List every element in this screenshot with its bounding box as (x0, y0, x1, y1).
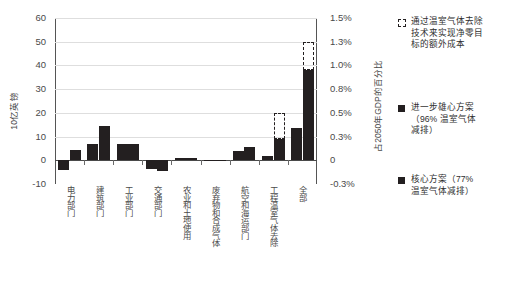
y-tick-label: -10 (12, 179, 46, 189)
y-tick-label: 30 (12, 84, 46, 94)
bar (99, 126, 110, 160)
dashed-extension-box (274, 113, 285, 139)
bar (291, 128, 302, 160)
bar (186, 158, 197, 160)
legend-swatch-icon (398, 105, 405, 112)
gridline (55, 65, 317, 66)
y-tick-label: 0 (12, 155, 46, 165)
x-category-label: 工程温室气体去除 (268, 186, 277, 247)
zero-baseline (55, 160, 317, 161)
y-tick-label: 40 (12, 60, 46, 70)
bar (70, 150, 81, 161)
y2-tick-label: 0.8% (330, 84, 370, 94)
y2-axis-tick-labels: 1.5%1.3%1.0%0.8%0.5%0.3%0-0.3% (330, 0, 372, 297)
left-axis-line (55, 18, 56, 184)
x-category-label: 建筑部门 (94, 186, 103, 216)
x-category-label: 工业部门 (123, 186, 132, 216)
y-axis-tick-labels: 6050403020100-10 (12, 0, 46, 297)
x-tickmark (84, 160, 85, 165)
bar (244, 147, 255, 160)
y2-tick-label: 0.3% (330, 132, 370, 142)
gridline (55, 89, 317, 90)
y2-tick-label: -0.3% (330, 179, 370, 189)
bar (175, 158, 186, 160)
x-tickmark (230, 160, 231, 165)
bar (233, 151, 244, 160)
y2-tick-label: 0 (330, 155, 370, 165)
x-tickmark (201, 160, 202, 165)
legend-label: （96% 温室气体 (411, 114, 508, 126)
legend-label: 标的额外成本 (411, 39, 508, 51)
x-category-label: 农业和土地使用 (181, 186, 190, 239)
x-category-label: 交通部门 (152, 186, 161, 216)
x-tickmark (171, 160, 172, 165)
legend-label: 减排） (411, 125, 508, 137)
y-tick-label: 20 (12, 108, 46, 118)
x-tickmark (142, 160, 143, 165)
bar (303, 70, 314, 160)
legend-label: 进一步雄心方案 (411, 102, 508, 114)
legend-item[interactable]: 通过温室气体去除技术来实现净零目标的额外成本 (398, 16, 508, 51)
bar (146, 160, 157, 168)
bar (58, 160, 69, 169)
y-tick-label: 50 (12, 37, 46, 47)
y2-tick-label: 0.5% (330, 108, 370, 118)
y2-tick-label: 1.5% (330, 13, 370, 23)
x-tickmark (259, 160, 260, 165)
x-category-label: 航空和海运部门 (239, 186, 248, 239)
y-tick-label: 60 (12, 13, 46, 23)
legend-label: 通过温室气体去除 (411, 16, 508, 28)
x-tickmark (288, 160, 289, 165)
gridline (55, 18, 317, 19)
bar (117, 144, 128, 161)
bar (87, 144, 98, 161)
x-axis-category-labels: 电力部门建筑部门工业部门交通部门农业和土地使用废弃物和合成气体航空和海运部门工程… (55, 186, 317, 281)
legend-swatch-icon (398, 19, 406, 27)
y2-tick-label: 1.0% (330, 60, 370, 70)
right-axis-line (316, 18, 317, 184)
y2-tick-label: 1.3% (330, 37, 370, 47)
bar (262, 156, 273, 161)
dashed-extension-box (303, 42, 314, 70)
y-tick-label: 10 (12, 132, 46, 142)
plot-area (55, 18, 317, 184)
bar (215, 160, 226, 161)
chart-figure: 10亿英镑 6050403020100-10 占2050年GDP的百分比 1.5… (0, 0, 508, 297)
bar (204, 160, 215, 161)
x-tickmark (113, 160, 114, 165)
x-category-label: 电力部门 (65, 186, 74, 216)
x-category-label: 废弃物和合成气体 (210, 186, 219, 247)
gridline (55, 42, 317, 43)
bar (274, 139, 285, 160)
legend-label: 核心方案（77% (411, 174, 508, 186)
legend-item[interactable]: 核心方案（77%温室气体减排） (398, 174, 508, 197)
legend-item[interactable]: 进一步雄心方案（96% 温室气体减排） (398, 102, 508, 137)
legend-label: 技术来实现净零目 (411, 28, 508, 40)
y2-axis-title: 占2050年GDP的百分比 (371, 46, 383, 166)
legend-label: 温室气体减排） (411, 186, 508, 198)
legend-swatch-icon (398, 177, 405, 184)
bar (128, 144, 139, 161)
bar (157, 160, 168, 171)
x-category-label: 全部 (297, 186, 306, 201)
